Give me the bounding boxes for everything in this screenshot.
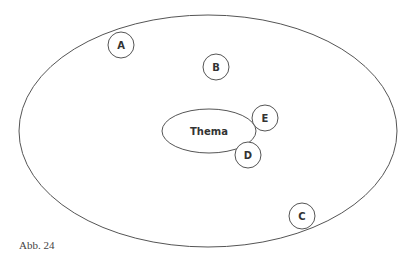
node-c: C <box>289 203 315 229</box>
node-a-label: A <box>117 40 125 51</box>
node-c-label: C <box>298 211 305 222</box>
thema-label: Thema <box>190 126 228 137</box>
node-e: E <box>252 105 278 131</box>
node-b: B <box>203 54 229 80</box>
figure-caption: Abb. 24 <box>19 239 54 251</box>
node-b-label: B <box>212 62 220 73</box>
node-d-label: D <box>244 150 252 161</box>
node-d: D <box>235 142 261 168</box>
node-e-label: E <box>262 113 269 124</box>
diagram-canvas: Thema A B C D E <box>0 0 413 261</box>
node-a: A <box>108 32 134 58</box>
